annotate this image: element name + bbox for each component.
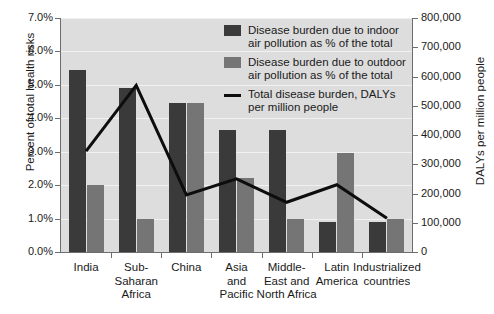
- bar-indoor-air-pollution: [119, 88, 136, 252]
- x-tick: [362, 253, 363, 258]
- bar-indoor-air-pollution: [219, 130, 236, 252]
- right-tick-label: 600,000: [421, 71, 461, 82]
- legend-item: Disease burden due to outdoor air pollut…: [224, 56, 414, 82]
- right-axis-title: DALYs per million people: [474, 26, 486, 216]
- right-tick-label: 200,000: [421, 188, 461, 199]
- left-tick: [55, 252, 60, 253]
- bar-outdoor-air-pollution: [87, 185, 104, 252]
- right-tick-label: 0: [421, 246, 427, 257]
- left-tick: [55, 219, 60, 220]
- gridline: [61, 152, 412, 153]
- right-tick: [413, 135, 418, 136]
- x-tick: [111, 253, 112, 258]
- left-tick: [55, 118, 60, 119]
- right-tick-label: 400,000: [421, 129, 461, 140]
- x-axis-line: [60, 252, 413, 253]
- bar-outdoor-air-pollution: [387, 219, 404, 252]
- left-tick-label: 1.0%: [28, 213, 53, 224]
- right-tick: [413, 252, 418, 253]
- left-axis-title: Percent of total health risks: [24, 12, 36, 192]
- left-tick: [55, 185, 60, 186]
- right-tick-label: 700,000: [421, 41, 461, 52]
- bar-outdoor-air-pollution: [287, 219, 304, 252]
- bar-indoor-air-pollution: [319, 222, 336, 252]
- left-tick: [55, 152, 60, 153]
- bar-outdoor-air-pollution: [337, 153, 354, 252]
- left-tick-label: 0.0%: [28, 246, 53, 257]
- x-tick: [161, 253, 162, 258]
- legend-item: Total disease burden, DALYs per million …: [224, 88, 414, 114]
- bar-outdoor-air-pollution: [237, 178, 254, 252]
- left-tick: [55, 51, 60, 52]
- x-tick: [211, 253, 212, 258]
- legend-gray-swatch-icon: [224, 57, 241, 68]
- right-tick: [413, 164, 418, 165]
- left-tick: [55, 18, 60, 19]
- left-tick: [55, 85, 60, 86]
- right-tick-label: 300,000: [421, 158, 461, 169]
- bar-outdoor-air-pollution: [137, 219, 154, 252]
- legend-label: Disease burden due to outdoor air pollut…: [248, 56, 406, 82]
- left-axis-line: [60, 18, 61, 252]
- bar-outdoor-air-pollution: [187, 103, 204, 252]
- legend-item: Disease burden due to indoor air polluti…: [224, 24, 414, 50]
- bar-indoor-air-pollution: [369, 222, 386, 252]
- bar-indoor-air-pollution: [269, 130, 286, 252]
- right-tick-label: 500,000: [421, 100, 461, 111]
- legend-label: Total disease burden, DALYs per million …: [248, 88, 395, 114]
- chart-figure: 0.0%1.0%2.0%3.0%4.0%5.0%6.0%7.0% 0100,00…: [0, 0, 494, 314]
- legend-dark-swatch-icon: [224, 25, 241, 36]
- right-tick-label: 100,000: [421, 217, 461, 228]
- gridline: [61, 18, 412, 19]
- legend-label: Disease burden due to indoor air polluti…: [248, 24, 399, 50]
- right-tick-label: 800,000: [421, 12, 461, 23]
- x-tick: [262, 253, 263, 258]
- chart-legend: Disease burden due to indoor air polluti…: [224, 24, 414, 120]
- bar-indoor-air-pollution: [169, 103, 186, 252]
- x-category-label: Industrialized countries: [353, 261, 421, 288]
- bar-indoor-air-pollution: [69, 70, 86, 252]
- right-tick: [413, 18, 418, 19]
- x-tick: [312, 253, 313, 258]
- right-tick: [413, 223, 418, 224]
- legend-line-icon: [224, 89, 241, 100]
- right-tick: [413, 194, 418, 195]
- chart-title: [8, 0, 308, 3]
